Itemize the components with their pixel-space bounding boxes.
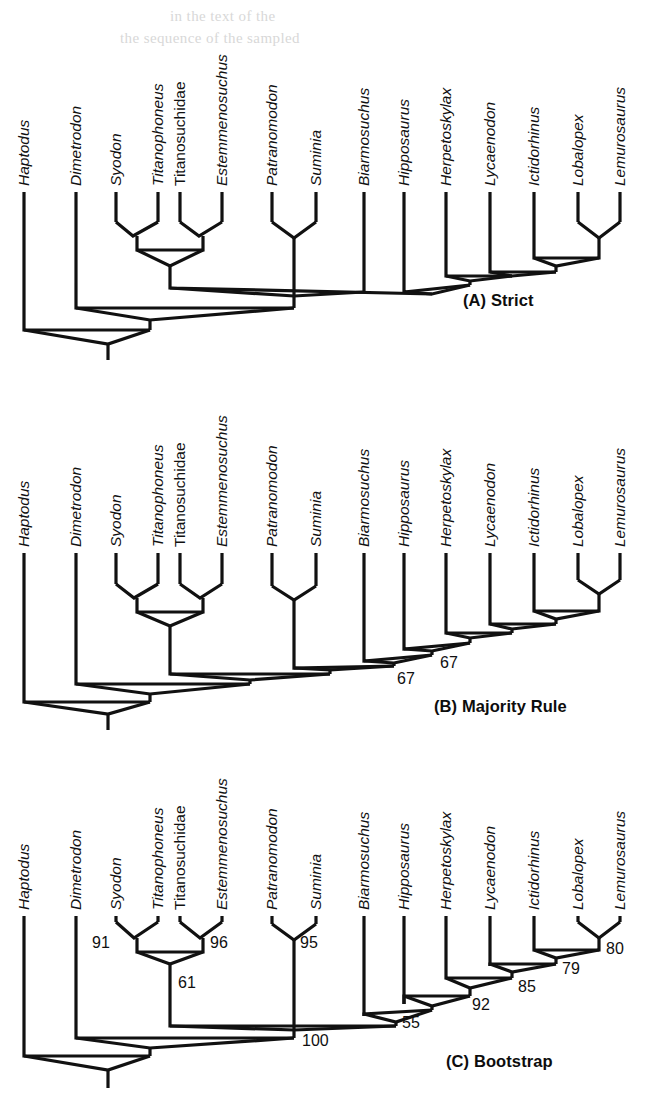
tip-label-ictidorhinus: Ictidorhinus	[525, 106, 542, 186]
tip-label-dimetrodon: Dimetrodon	[67, 830, 84, 910]
tip-labels-bootstrap: Haptodus Dimetrodon Syodon Titanophoneus…	[15, 778, 628, 910]
tip-label-biarmosuchus: Biarmosuchus	[355, 88, 372, 186]
panel-bootstrap-consensus: Haptodus Dimetrodon Syodon Titanophoneus…	[0, 726, 663, 1096]
tree-branches-strict	[24, 192, 620, 360]
support-value-biarmosuchia: 55	[402, 1014, 420, 1031]
tip-label-haptodus: Haptodus	[15, 480, 32, 547]
tip-label-lycaenodon: Lycaenodon	[481, 826, 498, 910]
tip-label-herpetoskylax: Herpetoskylax	[437, 811, 454, 910]
panel-strict-consensus: Haptodus Dimetrodon Syodon Titanophoneus…	[0, 0, 663, 370]
support-value-ictidorhinus-clade: 79	[562, 960, 580, 977]
tip-label-patranomodon: Patranomodon	[263, 84, 280, 186]
support-value-biarmosuchia-crown: 67	[440, 654, 458, 671]
tip-label-estemmenosuchus: Estemmenosuchus	[213, 54, 230, 186]
tip-label-titanosuchidae: Titanosuchidae	[171, 805, 188, 910]
tip-label-ictidorhinus: Ictidorhinus	[525, 830, 542, 910]
tip-label-lemurosaurus: Lemurosaurus	[611, 811, 628, 910]
cladogram-bootstrap: Haptodus Dimetrodon Syodon Titanophoneus…	[0, 726, 663, 1096]
support-value-therapsida: 100	[302, 1032, 329, 1049]
tip-label-suminia: Suminia	[307, 491, 324, 547]
tip-label-titanosuchidae: Titanosuchidae	[171, 442, 188, 547]
panel-caption-strict: (A) Strict	[463, 291, 534, 310]
tip-label-titanophoneus: Titanophoneus	[149, 807, 166, 910]
tip-label-estemmenosuchus: Estemmenosuchus	[213, 778, 230, 910]
tip-label-patranomodon: Patranomodon	[263, 808, 280, 910]
tip-labels-majority: Haptodus Dimetrodon Syodon Titanophoneus…	[15, 415, 628, 547]
tip-label-estemmenosuchus: Estemmenosuchus	[213, 415, 230, 547]
tip-label-biarmosuchus: Biarmosuchus	[355, 449, 372, 547]
tip-label-haptodus: Haptodus	[15, 119, 32, 186]
support-value-biarmosuchia-stem: 67	[397, 670, 415, 687]
tip-label-dimetrodon: Dimetrodon	[67, 467, 84, 547]
tip-label-syodon: Syodon	[107, 494, 124, 547]
tip-label-dimetrodon: Dimetrodon	[67, 106, 84, 186]
tip-label-hipposaurus: Hipposaurus	[395, 823, 412, 910]
tip-label-patranomodon: Patranomodon	[263, 445, 280, 547]
tip-label-titanophoneus: Titanophoneus	[149, 444, 166, 547]
tip-label-suminia: Suminia	[307, 854, 324, 910]
tip-label-lemurosaurus: Lemurosaurus	[611, 448, 628, 547]
panel-caption-bootstrap: (C) Bootstrap	[446, 1052, 553, 1071]
panel-majority-rule-consensus: Haptodus Dimetrodon Syodon Titanophoneus…	[0, 358, 663, 733]
tip-label-titanosuchidae: Titanosuchidae	[171, 81, 188, 186]
tip-label-lobalopex: Lobalopex	[569, 113, 586, 186]
support-value-lobalopex-lemurosaurus: 80	[606, 940, 624, 957]
tip-label-lycaenodon: Lycaenodon	[481, 102, 498, 186]
tip-label-lobalopex: Lobalopex	[569, 474, 586, 547]
tip-label-syodon: Syodon	[107, 857, 124, 910]
figure-consensus-trees: Haptodus Dimetrodon Syodon Titanophoneus…	[0, 0, 663, 1096]
tip-label-hipposaurus: Hipposaurus	[395, 460, 412, 547]
tip-label-lemurosaurus: Lemurosaurus	[611, 87, 628, 186]
tip-label-syodon: Syodon	[107, 133, 124, 186]
cladogram-strict: Haptodus Dimetrodon Syodon Titanophoneus…	[0, 0, 663, 370]
tip-label-lobalopex: Lobalopex	[569, 837, 586, 910]
tip-label-herpetoskylax: Herpetoskylax	[437, 448, 454, 547]
support-value-herpetoskylax-clade: 92	[472, 996, 490, 1013]
tip-label-hipposaurus: Hipposaurus	[395, 99, 412, 186]
support-value-patranomodon-suminia: 95	[300, 934, 318, 951]
tip-label-suminia: Suminia	[307, 130, 324, 186]
cladogram-majority-rule: Haptodus Dimetrodon Syodon Titanophoneus…	[0, 358, 663, 733]
support-value-anomodont-dinocephalian: 61	[178, 974, 196, 991]
tip-label-ictidorhinus: Ictidorhinus	[525, 467, 542, 547]
tip-label-haptodus: Haptodus	[15, 843, 32, 910]
support-value-titanosuchidae-estemmenosuchus: 96	[210, 934, 228, 951]
tip-label-biarmosuchus: Biarmosuchus	[355, 812, 372, 910]
support-value-syodon-titanophoneus: 91	[92, 934, 110, 951]
support-value-lycaenodon-clade: 85	[518, 978, 536, 995]
tip-labels-strict: Haptodus Dimetrodon Syodon Titanophoneus…	[15, 54, 628, 186]
panel-caption-majority-rule: (B) Majority Rule	[434, 697, 567, 716]
tip-label-lycaenodon: Lycaenodon	[481, 463, 498, 547]
tip-label-titanophoneus: Titanophoneus	[149, 83, 166, 186]
tip-label-herpetoskylax: Herpetoskylax	[437, 87, 454, 186]
